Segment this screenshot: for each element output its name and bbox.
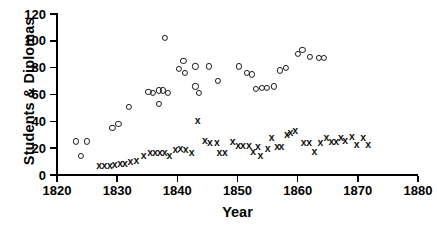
x-tick-label: 1820 bbox=[27, 184, 87, 197]
data-point-diplomas: x bbox=[244, 140, 253, 149]
data-point-diplomas: x bbox=[273, 141, 282, 150]
data-point-diplomas: x bbox=[282, 129, 291, 138]
x-tick-mark bbox=[177, 176, 179, 182]
data-point-diplomas: x bbox=[181, 144, 190, 153]
data-point-students bbox=[150, 90, 156, 96]
data-point-students bbox=[165, 90, 171, 96]
data-point-diplomas: x bbox=[100, 160, 109, 169]
y-tick-label: 60 bbox=[0, 88, 46, 101]
y-tick-mark bbox=[50, 40, 56, 42]
x-tick-mark bbox=[56, 176, 58, 182]
data-point-diplomas: x bbox=[364, 138, 373, 147]
x-tick-label: 1860 bbox=[268, 184, 328, 197]
data-point-students bbox=[196, 90, 202, 96]
y-tick-label: 80 bbox=[0, 61, 46, 74]
data-point-students bbox=[156, 87, 162, 93]
data-point-diplomas: x bbox=[95, 160, 104, 169]
y-tick-mark bbox=[50, 94, 56, 96]
data-point-students bbox=[175, 66, 181, 72]
x-tick-label: 1880 bbox=[388, 184, 437, 197]
data-point-diplomas: x bbox=[193, 114, 202, 123]
data-point-diplomas: x bbox=[336, 132, 345, 141]
data-point-students bbox=[249, 71, 255, 77]
data-point-students bbox=[182, 70, 188, 76]
data-point-diplomas: x bbox=[256, 149, 265, 158]
data-point-diplomas: x bbox=[341, 134, 350, 143]
x-tick-mark bbox=[357, 176, 359, 182]
data-point-diplomas: x bbox=[120, 157, 129, 166]
y-tick-mark bbox=[50, 67, 56, 69]
y-tick-mark bbox=[50, 147, 56, 149]
x-tick-mark bbox=[417, 176, 419, 182]
data-point-diplomas: x bbox=[116, 157, 125, 166]
data-point-diplomas: x bbox=[238, 140, 247, 149]
data-point-diplomas: x bbox=[215, 146, 224, 155]
data-point-students bbox=[145, 89, 151, 95]
x-tick-label: 1850 bbox=[208, 184, 268, 197]
data-point-diplomas: x bbox=[205, 137, 214, 146]
data-point-students bbox=[192, 83, 198, 89]
data-point-students bbox=[192, 63, 198, 69]
data-point-students bbox=[320, 55, 326, 61]
data-point-diplomas: x bbox=[359, 132, 368, 141]
data-point-diplomas: x bbox=[151, 146, 160, 155]
data-point-students bbox=[156, 101, 162, 107]
data-point-students bbox=[264, 85, 270, 91]
data-point-students bbox=[307, 54, 313, 60]
data-point-diplomas: x bbox=[146, 146, 155, 155]
data-point-students bbox=[277, 67, 283, 73]
scatter-chart-figure: Students & Diplomas 020406080100120 1820… bbox=[0, 0, 437, 236]
data-point-diplomas: x bbox=[171, 144, 180, 153]
x-tick-mark bbox=[237, 176, 239, 182]
data-point-students bbox=[316, 55, 322, 61]
y-tick-label: 120 bbox=[0, 8, 46, 21]
x-tick-mark bbox=[297, 176, 299, 182]
data-point-diplomas: x bbox=[291, 125, 300, 134]
data-point-diplomas: x bbox=[286, 126, 295, 135]
data-point-diplomas: x bbox=[213, 137, 222, 146]
y-tick-mark bbox=[50, 13, 56, 15]
y-tick-label: 40 bbox=[0, 115, 46, 128]
data-point-diplomas: x bbox=[267, 132, 276, 141]
data-point-diplomas: x bbox=[105, 160, 114, 169]
data-point-students bbox=[295, 51, 301, 57]
y-tick-mark bbox=[50, 121, 56, 123]
y-tick-label: 0 bbox=[0, 169, 46, 182]
x-tick-label: 1840 bbox=[147, 184, 207, 197]
data-point-students bbox=[283, 65, 289, 71]
data-point-diplomas: x bbox=[316, 137, 325, 146]
data-point-diplomas: x bbox=[347, 130, 356, 139]
data-point-students bbox=[299, 47, 305, 53]
data-point-diplomas: x bbox=[110, 158, 119, 167]
data-point-diplomas: x bbox=[352, 138, 361, 147]
x-axis-title: Year bbox=[57, 205, 418, 220]
data-point-students bbox=[115, 121, 121, 127]
y-tick-mark bbox=[50, 174, 56, 176]
data-point-students bbox=[84, 138, 90, 144]
data-point-diplomas: x bbox=[332, 136, 341, 145]
data-point-students bbox=[271, 83, 277, 89]
data-point-students bbox=[78, 153, 84, 159]
data-point-diplomas: x bbox=[305, 137, 314, 146]
data-point-students bbox=[109, 125, 115, 131]
data-point-students bbox=[243, 70, 249, 76]
data-point-diplomas: x bbox=[165, 149, 174, 158]
data-point-diplomas: x bbox=[277, 141, 286, 150]
data-point-students bbox=[259, 85, 265, 91]
data-point-diplomas: x bbox=[176, 142, 185, 151]
data-point-students bbox=[206, 63, 212, 69]
x-tick-label: 1870 bbox=[328, 184, 388, 197]
data-point-diplomas: x bbox=[132, 154, 141, 163]
data-point-diplomas: x bbox=[160, 146, 169, 155]
data-point-students bbox=[162, 35, 168, 41]
data-point-students bbox=[160, 87, 166, 93]
data-point-diplomas: x bbox=[187, 146, 196, 155]
plot-area: xxxxxxxxxxxxxxxxxxxxxxxxxxxxxxxxxxxxxxxx… bbox=[57, 14, 418, 175]
data-point-diplomas: x bbox=[139, 149, 148, 158]
data-point-diplomas: x bbox=[249, 145, 258, 154]
data-point-diplomas: x bbox=[299, 137, 308, 146]
data-point-diplomas: x bbox=[126, 156, 135, 165]
data-point-diplomas: x bbox=[220, 146, 229, 155]
data-point-diplomas: x bbox=[253, 141, 262, 150]
x-tick-label: 1830 bbox=[87, 184, 147, 197]
